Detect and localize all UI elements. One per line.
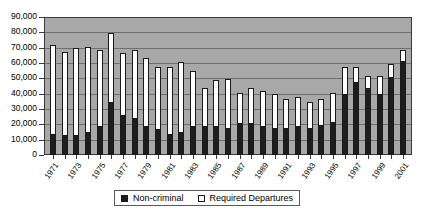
stacked-bar[interactable] (73, 48, 79, 155)
x-axis-slot: 1975 (94, 155, 106, 189)
stacked-bar[interactable] (178, 62, 184, 155)
stacked-bar[interactable] (97, 50, 103, 155)
stacked-bar[interactable] (318, 99, 324, 155)
x-axis-tick (310, 155, 311, 159)
stacked-bar[interactable] (202, 88, 208, 155)
stacked-bar[interactable] (155, 67, 161, 155)
bar-segment-required-departures (342, 67, 348, 94)
legend-item[interactable]: Non-criminal (121, 193, 184, 203)
bar-segment-non-criminal (97, 126, 103, 155)
x-axis-slot: 1985 (210, 155, 222, 189)
bar-segment-non-criminal (213, 126, 219, 155)
x-axis-tick (356, 155, 357, 159)
x-axis-slot: 1991 (280, 155, 292, 189)
x-axis-tick (275, 155, 276, 159)
x-axis-tick (170, 155, 171, 159)
bar-segment-required-departures (73, 48, 79, 135)
bar-segment-non-criminal (388, 77, 394, 155)
stacked-bar[interactable] (388, 64, 394, 155)
x-axis-label: 1971 (43, 161, 61, 181)
x-axis-tick (286, 155, 287, 159)
stacked-bar[interactable] (62, 52, 68, 156)
bar-segment-required-departures (260, 91, 266, 126)
bar-segment-required-departures (132, 50, 138, 119)
stacked-bar[interactable] (365, 76, 371, 155)
bar-segment-required-departures (202, 88, 208, 126)
bar-slot (280, 18, 292, 155)
stacked-bar[interactable] (225, 79, 231, 155)
stacked-bar[interactable] (213, 80, 219, 155)
bar-slot (292, 18, 304, 155)
bar-segment-required-departures (377, 76, 383, 94)
bar-segment-required-departures (307, 102, 313, 128)
stacked-bar[interactable] (342, 67, 348, 155)
x-axis-tick (146, 155, 147, 159)
stacked-bar[interactable] (283, 99, 289, 155)
chart-container: 90,00080,00070,00060,00050,00040,00030,0… (0, 0, 423, 213)
x-axis-tick (205, 155, 206, 159)
bar-segment-required-departures (62, 52, 68, 136)
x-axis-tick (228, 155, 229, 159)
bar-segment-required-departures (225, 79, 231, 128)
stacked-bar[interactable] (307, 102, 313, 155)
stacked-bar[interactable] (237, 93, 243, 155)
stacked-bar[interactable] (400, 50, 406, 155)
bar-slot (315, 18, 327, 155)
x-axis-tick (263, 155, 264, 159)
stacked-bar[interactable] (132, 50, 138, 155)
chart-legend: Non-criminalRequired Departures (114, 190, 300, 206)
stacked-bar[interactable] (330, 93, 336, 155)
bar-segment-non-criminal (143, 126, 149, 155)
stacked-bar[interactable] (272, 94, 278, 155)
bar-slot (304, 18, 316, 155)
bar-slot (47, 18, 59, 155)
bar-slot (385, 18, 397, 155)
bar-segment-non-criminal (167, 134, 173, 155)
y-axis-label: 50,000 (11, 73, 37, 82)
bar-slot (140, 18, 152, 155)
stacked-bar[interactable] (295, 97, 301, 155)
y-axis-label: 0 (32, 150, 37, 159)
bar-slot (339, 18, 351, 155)
bar-segment-required-departures (50, 45, 56, 133)
bar-segment-required-departures (388, 64, 394, 78)
x-axis-tick (111, 155, 112, 159)
bar-segment-non-criminal (190, 126, 196, 155)
stacked-bar[interactable] (353, 67, 359, 155)
stacked-bar[interactable] (108, 33, 114, 155)
stacked-bar[interactable] (50, 45, 56, 155)
bar-segment-required-departures (330, 93, 336, 122)
x-axis-slot: 1971 (47, 155, 59, 189)
bar-segment-non-criminal (342, 94, 348, 155)
x-axis-tick (88, 155, 89, 159)
stacked-bar[interactable] (143, 58, 149, 155)
stacked-bar[interactable] (377, 76, 383, 155)
stacked-bar[interactable] (190, 71, 196, 155)
bar-segment-required-departures (318, 99, 324, 125)
stacked-bar[interactable] (85, 47, 91, 155)
stacked-bar[interactable] (248, 88, 254, 155)
bar-segment-non-criminal (377, 94, 383, 155)
bar-slot (175, 18, 187, 155)
x-axis-tick (76, 155, 77, 159)
x-axis-slot: 1995 (327, 155, 339, 189)
stacked-bar[interactable] (260, 91, 266, 155)
x-axis-tick (53, 155, 54, 159)
bar-segment-non-criminal (50, 134, 56, 155)
bar-segment-non-criminal (353, 82, 359, 155)
x-axis-tick (321, 155, 322, 159)
bar-segment-non-criminal (237, 123, 243, 155)
bar-segment-non-criminal (62, 135, 68, 155)
bar-slot (105, 18, 117, 155)
stacked-bar[interactable] (120, 53, 126, 155)
x-axis-slot: 1989 (257, 155, 269, 189)
bar-slot (164, 18, 176, 155)
bar-segment-non-criminal (202, 126, 208, 155)
bar-segment-required-departures (400, 50, 406, 61)
stacked-bar[interactable] (167, 67, 173, 155)
legend-item[interactable]: Required Departures (198, 193, 294, 203)
x-axis-slot: 1987 (234, 155, 246, 189)
x-axis-tick (193, 155, 194, 159)
bar-segment-non-criminal (318, 125, 324, 155)
legend-swatch-light (198, 195, 205, 202)
